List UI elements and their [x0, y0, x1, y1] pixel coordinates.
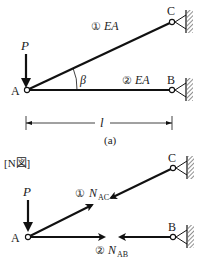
angle-arc: [73, 68, 77, 90]
n-hinge-b: [170, 234, 175, 239]
n-support-b: [176, 225, 194, 248]
force1-subscript: AC: [98, 193, 109, 202]
load-arrowhead: [21, 78, 31, 88]
force2-label: N: [107, 243, 117, 257]
n-support-c: [176, 156, 194, 179]
n-load-label: P: [22, 184, 31, 199]
force-ac-lower: [28, 205, 92, 237]
caption-a: (a): [104, 134, 117, 147]
n-diagram-title: [N図]: [4, 157, 30, 169]
force1-label: N: [88, 186, 98, 200]
load-label: P: [20, 38, 29, 53]
truss-diagram: P A C B ① EA ② EA β l (a) [N図]: [0, 0, 224, 258]
n-node-a-label: A: [11, 231, 20, 245]
angle-label: β: [79, 73, 86, 87]
member1-number: ①: [91, 20, 101, 32]
force1-number: ①: [75, 187, 85, 199]
n-node-b-label: B: [168, 220, 176, 234]
node-c-label: C: [167, 4, 175, 18]
figure-a: P A C B ① EA ② EA β l (a): [11, 4, 193, 147]
dimension-line: [26, 116, 172, 130]
force2-subscript: AB: [117, 250, 128, 258]
node-a-label: A: [11, 84, 20, 98]
member-ac: [27, 22, 172, 90]
support-b: [175, 78, 193, 101]
hinge-c: [169, 19, 174, 24]
member2-number: ②: [122, 74, 132, 86]
force-ac-upper: [111, 168, 173, 198]
length-label: l: [100, 115, 104, 130]
n-hinge-a: [25, 234, 30, 239]
node-b-label: B: [167, 73, 175, 87]
member2-property: EA: [134, 73, 150, 87]
n-node-c-label: C: [168, 151, 176, 165]
support-c: [175, 10, 193, 33]
n-load-arrowhead: [23, 222, 33, 232]
member1-property: EA: [103, 19, 119, 33]
hinge-b: [169, 87, 174, 92]
force2-number: ②: [95, 244, 105, 256]
hinge-a: [24, 87, 29, 92]
n-hinge-c: [170, 165, 175, 170]
figure-n: [N図] P A C B ① N AC: [4, 151, 194, 258]
